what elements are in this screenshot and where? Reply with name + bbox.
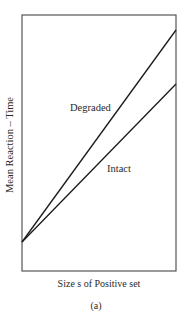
chart: Degraded Intact Mean Reaction – Time Siz… xyxy=(0,0,182,325)
intact-label: Intact xyxy=(107,163,131,174)
plot-frame xyxy=(22,15,176,271)
figure-caption: (a) xyxy=(90,300,101,312)
x-axis-label: Size s of Positive set xyxy=(58,278,141,289)
y-axis-label: Mean Reaction – Time xyxy=(4,97,15,193)
degraded-label: Degraded xyxy=(70,102,112,113)
degraded-line xyxy=(22,30,176,242)
